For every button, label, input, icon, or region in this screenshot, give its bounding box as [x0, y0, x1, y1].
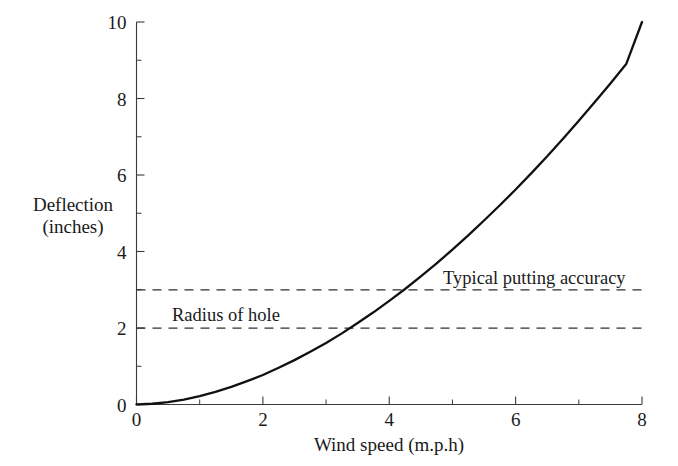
- y-tick-label: 10: [75, 13, 127, 32]
- y-tick-label: 4: [75, 243, 127, 262]
- data-curve: [137, 22, 643, 405]
- y-axis-label-line1: Deflection: [14, 194, 132, 216]
- y-axis-label-line2: (inches): [14, 216, 132, 238]
- x-tick-label: 8: [622, 410, 662, 429]
- annotation-typical-putting-accuracy: Typical putting accuracy: [443, 268, 626, 289]
- x-tick-label: 6: [496, 410, 536, 429]
- x-axis-label: Wind speed (m.p.h): [136, 434, 642, 456]
- y-tick-label: 2: [75, 319, 127, 338]
- y-tick-label: 8: [75, 90, 127, 109]
- chart-figure: Deflection (inches) Wind speed (m.p.h) T…: [0, 0, 678, 466]
- annotation-radius-of-hole: Radius of hole: [172, 305, 280, 326]
- y-axis-label: Deflection (inches): [14, 194, 132, 239]
- y-tick-label: 0: [75, 396, 127, 415]
- axes-group: [137, 22, 643, 405]
- x-tick-label: 2: [243, 410, 283, 429]
- data-curve-group: [137, 22, 643, 405]
- y-tick-label: 6: [75, 166, 127, 185]
- tick-marks-group: [137, 22, 643, 405]
- x-tick-label: 4: [369, 410, 409, 429]
